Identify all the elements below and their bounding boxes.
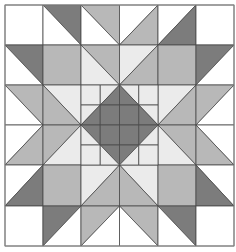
quilt-cell-r4-c4-square (158, 165, 196, 206)
center-star-sub-r0-c3-square (139, 85, 158, 105)
quilt-cell-r5-c5-square (196, 206, 234, 246)
quilt-cell-r0-c0-square (5, 5, 43, 45)
center-star-sub-r0-c0-square (81, 85, 100, 105)
center-star-sub-r2-c2-square (120, 125, 139, 145)
quilt-pattern (0, 0, 236, 252)
center-star-sub-r1-c2-square (120, 105, 139, 125)
center-star-sub-r1-c1-square (100, 105, 119, 125)
center-star-sub-r2-c1-square (100, 125, 119, 145)
quilt-cell-r5-c0-square (5, 206, 43, 246)
center-star-sub-r3-c3-square (139, 145, 158, 165)
quilt-cell-r1-c4-square (158, 45, 196, 85)
quilt-svg (0, 0, 236, 252)
quilt-cell-r4-c1-square (43, 165, 81, 206)
quilt-cell-r1-c1-square (43, 45, 81, 85)
quilt-cell-r0-c5-square (196, 5, 234, 45)
center-star-sub-r3-c0-square (81, 145, 100, 165)
